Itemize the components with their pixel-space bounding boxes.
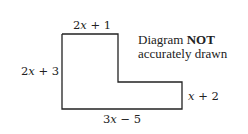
label-top-side: 2x + 1 bbox=[73, 20, 111, 32]
diagram-canvas: 2x + 1 2x + 3 x + 2 3x − 5 Diagram NOT a… bbox=[0, 0, 248, 134]
note-prefix: Diagram bbox=[138, 32, 187, 47]
label-bottom-side: 3x − 5 bbox=[103, 114, 141, 126]
label-bottom-const: − 5 bbox=[117, 112, 141, 126]
label-left-const: + 3 bbox=[35, 64, 59, 78]
note-line-1: Diagram NOT bbox=[138, 33, 227, 47]
note-bold-not: NOT bbox=[187, 32, 215, 47]
not-to-scale-note: Diagram NOT accurately drawn bbox=[138, 33, 227, 61]
note-line-2: accurately drawn bbox=[138, 47, 227, 61]
label-left-side: 2x + 3 bbox=[21, 66, 59, 78]
label-right-lower-side: x + 2 bbox=[188, 91, 219, 103]
label-top-const: + 1 bbox=[87, 18, 111, 32]
label-right-const: + 2 bbox=[195, 89, 219, 103]
